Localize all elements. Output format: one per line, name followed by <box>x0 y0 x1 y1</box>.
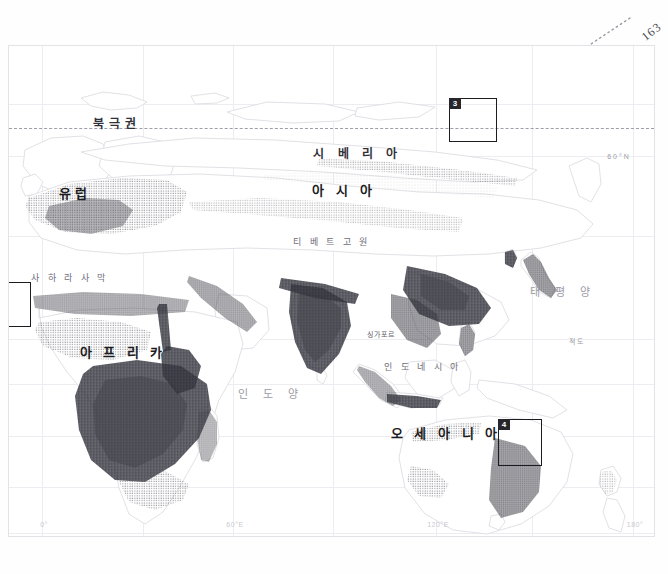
inset-box-3[interactable]: 3 <box>449 98 497 142</box>
inset-box-4[interactable]: 4 <box>498 419 542 466</box>
page-number: 163 <box>639 20 665 45</box>
map-page: 163 <box>0 0 668 574</box>
map-canvas <box>9 46 654 536</box>
inset-box-4-tag: 4 <box>498 419 510 430</box>
inset-box-2[interactable]: 2 <box>8 282 31 327</box>
map-frame[interactable]: 2 3 4 북극권 유럽 아 시 아 아 프 리 카 오 세 아 니 아 시 베… <box>8 45 655 537</box>
inset-box-3-tag: 3 <box>449 98 461 109</box>
